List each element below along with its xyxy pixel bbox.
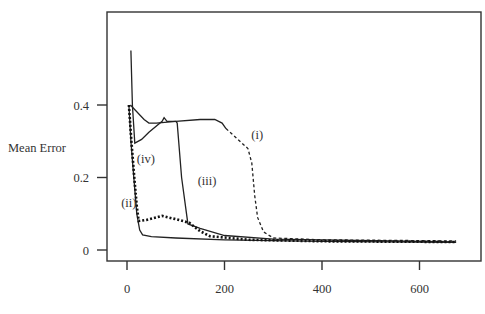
series-i-dashed — [226, 129, 456, 241]
x-tick-label: 0 — [124, 282, 130, 296]
x-tick-label: 200 — [215, 282, 234, 296]
y-tick-label: 0 — [83, 244, 89, 258]
line-chart: 0200400600 00.20.4 (i)(ii)(iii)(iv) — [0, 0, 485, 314]
y-axis-ticks: 00.20.4 — [73, 99, 107, 258]
curve-label: (ii) — [121, 196, 136, 210]
x-axis-ticks: 0200400600 — [124, 261, 429, 296]
series-i-solid — [130, 105, 226, 129]
plot-frame — [107, 12, 481, 261]
y-tick-label: 0.4 — [73, 99, 89, 113]
curve-label: (i) — [251, 128, 263, 142]
curve-label: (iii) — [198, 174, 217, 188]
curve-labels: (i)(ii)(iii)(iv) — [121, 128, 263, 209]
x-tick-label: 600 — [410, 282, 429, 296]
series-iii — [131, 51, 456, 242]
curve-label: (iv) — [137, 152, 155, 166]
series-lines — [129, 51, 456, 243]
y-tick-label: 0.2 — [73, 171, 89, 185]
x-tick-label: 400 — [313, 282, 332, 296]
